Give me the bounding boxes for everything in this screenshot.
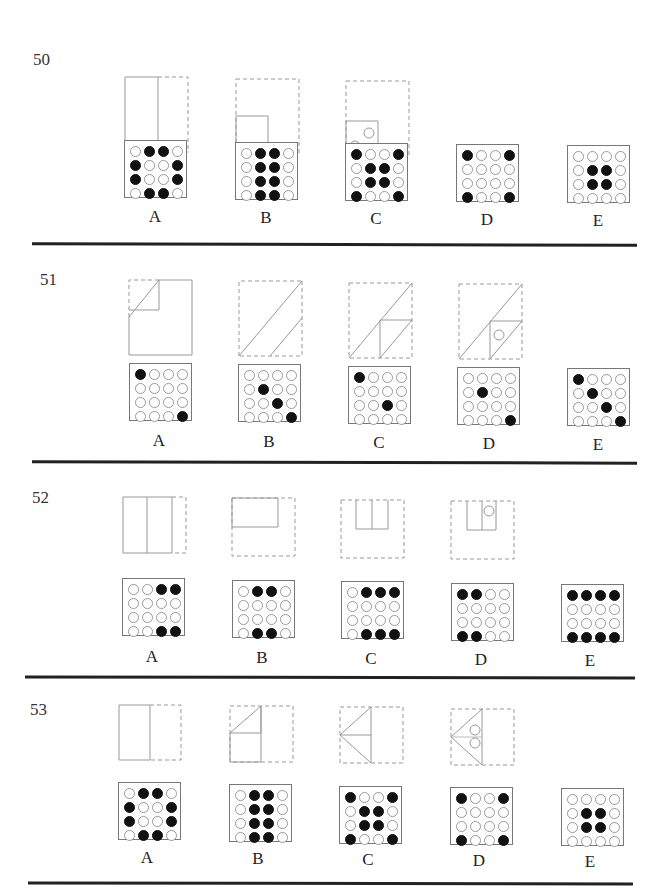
option-grid-e[interactable]	[561, 584, 624, 642]
option-label-e[interactable]: E	[588, 211, 608, 231]
empty-hole-icon	[138, 802, 149, 813]
option-label-b[interactable]: B	[248, 849, 268, 869]
empty-hole-icon	[581, 604, 592, 615]
option-grid-b[interactable]	[229, 784, 292, 842]
empty-hole-icon	[158, 160, 169, 171]
option-grid-b[interactable]	[232, 580, 295, 638]
empty-hole-icon	[471, 617, 482, 628]
filled-hole-icon	[504, 192, 515, 203]
empty-hole-icon	[587, 374, 598, 385]
empty-hole-icon	[387, 820, 398, 831]
empty-hole-icon	[177, 397, 188, 408]
option-label-e[interactable]: E	[580, 852, 600, 872]
empty-hole-icon	[484, 807, 495, 818]
filled-hole-icon	[269, 148, 280, 159]
option-grid-d[interactable]	[451, 583, 514, 641]
empty-hole-icon	[567, 808, 578, 819]
filled-hole-icon	[373, 820, 384, 831]
empty-hole-icon	[368, 386, 379, 397]
fold-step-4-punched	[458, 283, 524, 361]
option-label-a[interactable]: A	[145, 207, 165, 227]
empty-hole-icon	[601, 374, 612, 385]
empty-hole-icon	[581, 794, 592, 805]
option-label-b[interactable]: B	[259, 432, 279, 452]
empty-hole-icon	[142, 584, 153, 595]
filled-hole-icon	[581, 822, 592, 833]
option-label-d[interactable]: D	[471, 650, 491, 670]
filled-hole-icon	[138, 830, 149, 841]
empty-hole-icon	[152, 816, 163, 827]
option-label-e[interactable]: E	[580, 651, 600, 671]
option-grid-c[interactable]	[341, 581, 404, 639]
option-label-b[interactable]: B	[256, 208, 276, 228]
option-grid-e[interactable]	[561, 788, 624, 846]
filled-hole-icon	[601, 402, 612, 413]
option-grid-a[interactable]	[118, 782, 181, 840]
empty-hole-icon	[280, 614, 291, 625]
dot-grid	[457, 589, 511, 643]
filled-hole-icon	[601, 179, 612, 190]
empty-hole-icon	[485, 589, 496, 600]
option-label-d[interactable]: D	[479, 434, 499, 454]
filled-hole-icon	[177, 411, 188, 422]
option-grid-b[interactable]	[238, 364, 301, 422]
empty-hole-icon	[485, 617, 496, 628]
filled-hole-icon	[258, 384, 269, 395]
filled-hole-icon	[138, 788, 149, 799]
option-label-c[interactable]: C	[358, 850, 378, 870]
option-grid-e[interactable]	[567, 368, 630, 426]
empty-hole-icon	[393, 163, 404, 174]
empty-hole-icon	[490, 192, 501, 203]
dot-grid	[573, 151, 627, 205]
empty-hole-icon	[177, 369, 188, 380]
option-label-a[interactable]: A	[149, 431, 169, 451]
option-grid-c[interactable]	[339, 786, 402, 844]
option-label-d[interactable]: D	[469, 851, 489, 871]
option-grid-d[interactable]	[450, 787, 513, 845]
fold-step-4-punched	[450, 708, 516, 786]
empty-hole-icon	[361, 601, 372, 612]
option-grid-a[interactable]	[129, 363, 192, 421]
option-grid-a[interactable]	[122, 578, 185, 636]
option-label-c[interactable]: C	[369, 433, 389, 453]
option-label-c[interactable]: C	[361, 649, 381, 669]
empty-hole-icon	[365, 191, 376, 202]
option-grid-a[interactable]	[124, 140, 187, 198]
empty-hole-icon	[235, 790, 246, 801]
option-label-a[interactable]: A	[142, 647, 162, 667]
option-label-d[interactable]: D	[477, 210, 497, 230]
empty-hole-icon	[476, 150, 487, 161]
option-grid-c[interactable]	[345, 143, 408, 201]
empty-hole-icon	[609, 604, 620, 615]
empty-hole-icon	[347, 601, 358, 612]
option-grid-d[interactable]	[457, 367, 520, 425]
option-label-c[interactable]: C	[366, 209, 386, 229]
empty-hole-icon	[491, 415, 502, 426]
empty-hole-icon	[567, 836, 578, 847]
empty-hole-icon	[124, 788, 135, 799]
option-grid-d[interactable]	[456, 144, 519, 202]
dot-grid	[244, 370, 298, 424]
option-label-a[interactable]: A	[137, 848, 157, 868]
empty-hole-icon	[266, 600, 277, 611]
filled-hole-icon	[135, 369, 146, 380]
empty-hole-icon	[158, 174, 169, 185]
option-grid-c[interactable]	[348, 366, 411, 424]
option-grid-e[interactable]	[567, 145, 630, 203]
empty-hole-icon	[595, 618, 606, 629]
empty-hole-icon	[347, 587, 358, 598]
filled-hole-icon	[266, 628, 277, 639]
dot-grid	[567, 590, 621, 644]
filled-hole-icon	[124, 816, 135, 827]
empty-hole-icon	[277, 790, 288, 801]
empty-hole-icon	[375, 615, 386, 626]
empty-hole-icon	[272, 370, 283, 381]
option-label-e[interactable]: E	[588, 435, 608, 455]
empty-hole-icon	[238, 586, 249, 597]
filled-hole-icon	[379, 163, 390, 174]
option-label-b[interactable]: B	[252, 648, 272, 668]
filled-hole-icon	[382, 400, 393, 411]
option-grid-b[interactable]	[235, 142, 298, 200]
empty-hole-icon	[567, 822, 578, 833]
empty-hole-icon	[609, 808, 620, 819]
